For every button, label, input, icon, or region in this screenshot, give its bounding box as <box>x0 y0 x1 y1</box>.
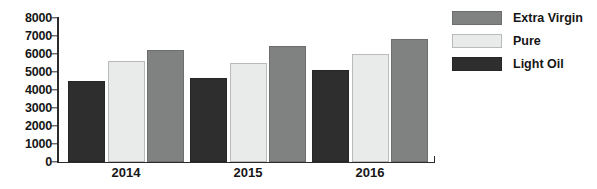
plot-area: 800070006000500040003000200010000 201420… <box>0 0 440 189</box>
y-axis-line <box>57 17 59 162</box>
y-axis-tick-label: 8000 <box>6 11 52 24</box>
y-axis-tick-label: 6000 <box>6 47 52 60</box>
y-axis-tick-label: 0 <box>6 155 52 168</box>
y-axis-tick-label: 4000 <box>6 83 52 96</box>
legend-swatch-light-oil-icon <box>452 57 502 71</box>
bar-extra-virgin-2016 <box>391 39 428 161</box>
legend-label: Pure <box>513 35 541 48</box>
bar-pure-2014 <box>108 61 145 162</box>
bar-chart-figure: 800070006000500040003000200010000 201420… <box>0 0 597 189</box>
y-axis-tick-label: 2000 <box>6 119 52 132</box>
y-axis-tick-mark <box>51 35 57 36</box>
bar-light-oil-2015 <box>190 78 227 162</box>
y-axis-tick-label: 3000 <box>6 101 52 114</box>
legend-item-light-oil[interactable]: Light Oil <box>452 57 597 71</box>
y-axis-tick-mark <box>51 143 57 144</box>
y-axis-tick-label: 5000 <box>6 65 52 78</box>
bar-extra-virgin-2014 <box>147 50 184 162</box>
y-axis-tick-mark <box>51 53 57 54</box>
legend-label: Extra Virgin <box>513 12 583 25</box>
y-axis-tick-label: 1000 <box>6 137 52 150</box>
x-axis-group-label: 2015 <box>234 166 263 179</box>
x-axis-group-label: 2016 <box>356 166 385 179</box>
y-axis-tick-label: 7000 <box>6 29 52 42</box>
y-axis-tick-mark <box>51 17 57 18</box>
legend-item-pure[interactable]: Pure <box>452 34 597 48</box>
x-axis-tick-mark <box>434 156 435 162</box>
legend-item-extra-virgin[interactable]: Extra Virgin <box>452 11 597 25</box>
bar-light-oil-2016 <box>312 70 349 162</box>
y-axis-tick-mark <box>51 125 57 126</box>
x-axis-line <box>57 162 435 164</box>
y-axis-tick-labels: 800070006000500040003000200010000 <box>0 0 52 189</box>
y-axis-tick-mark <box>51 89 57 90</box>
bar-pure-2016 <box>352 54 389 162</box>
bar-pure-2015 <box>230 63 267 162</box>
x-axis-group-label: 2014 <box>112 166 141 179</box>
bar-light-oil-2014 <box>68 81 105 162</box>
y-axis-tick-mark <box>51 71 57 72</box>
legend-swatch-pure-icon <box>452 34 502 48</box>
x-axis-tick-mark <box>58 156 59 162</box>
y-axis-tick-mark <box>51 107 57 108</box>
chart-legend: Extra VirginPureLight Oil <box>452 11 597 80</box>
bar-extra-virgin-2015 <box>269 46 306 161</box>
y-axis-tick-mark <box>51 161 57 162</box>
legend-label: Light Oil <box>513 58 564 71</box>
legend-swatch-extra-virgin-icon <box>452 11 502 25</box>
